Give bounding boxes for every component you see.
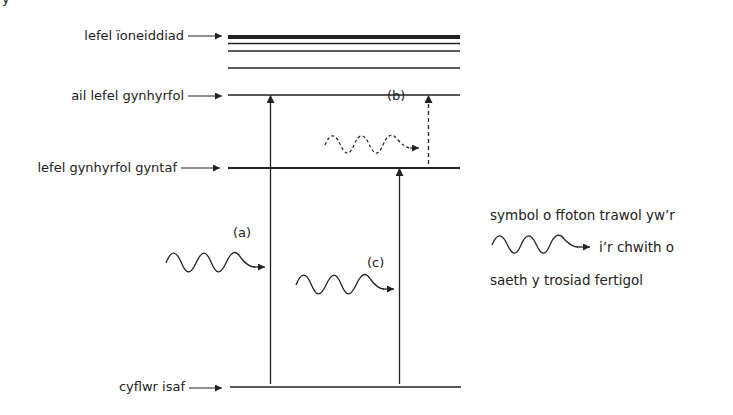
ionisation-level-lines (228, 37, 460, 68)
level-label-ionisation: lefel ïoneiddiad (84, 28, 184, 43)
photon-a-wave-icon (166, 253, 255, 272)
level-label-ground: cyflwr isaf (119, 379, 185, 394)
corner-glyph: y (2, 0, 10, 6)
legend-line-1: symbol o ffoton trawol yw’r (490, 207, 675, 223)
legend-line-3: saeth y trosiad fertigol (490, 272, 643, 288)
level-label-first-excited: lefel gynhyrfol gyntaf (38, 160, 178, 175)
photon-b-wave-icon (325, 135, 411, 153)
label-pointer-arrows (181, 36, 222, 388)
legend-line-2: i’r chwith o (599, 239, 674, 255)
legend-wavy-arrow-icon (492, 235, 578, 253)
transition-b-label: (b) (387, 88, 405, 103)
transition-a-label: (a) (233, 225, 251, 240)
level-label-second-excited: ail lefel gynhyrfol (71, 88, 184, 103)
transition-c-label: (c) (367, 255, 384, 270)
photon-c-wave-icon (296, 275, 384, 294)
